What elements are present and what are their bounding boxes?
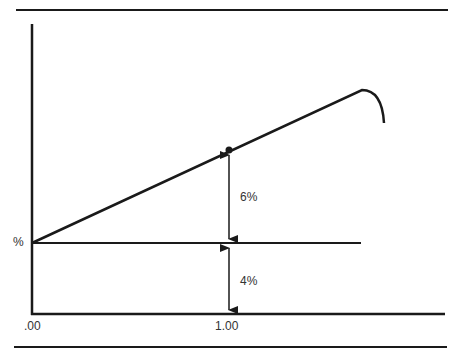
- marker-point: [226, 147, 233, 154]
- lower-gap-label: 4%: [240, 274, 257, 288]
- diagram-canvas: [0, 0, 457, 355]
- x-tick-start: .00: [24, 319, 41, 333]
- upper-gap-label: 6%: [240, 190, 257, 204]
- y-axis-label: %: [13, 235, 24, 249]
- x-tick-mid: 1.00: [215, 319, 238, 333]
- rising-curve: [32, 90, 384, 243]
